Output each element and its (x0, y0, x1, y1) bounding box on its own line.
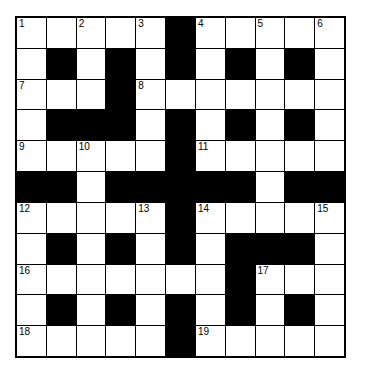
letter-cell[interactable] (256, 326, 285, 356)
letter-cell[interactable] (106, 265, 135, 295)
letter-cell[interactable] (315, 326, 344, 356)
letter-cell[interactable]: 16 (17, 265, 46, 295)
letter-cell[interactable]: 17 (256, 265, 285, 295)
letter-cell[interactable]: 3 (136, 18, 165, 48)
letter-cell[interactable] (256, 295, 285, 325)
letter-cell[interactable] (285, 265, 314, 295)
letter-cell[interactable] (285, 203, 314, 233)
letter-cell[interactable] (77, 326, 106, 356)
letter-cell[interactable] (285, 141, 314, 171)
letter-cell[interactable] (106, 141, 135, 171)
letter-cell[interactable] (226, 141, 255, 171)
letter-cell[interactable] (77, 49, 106, 79)
black-square (285, 234, 314, 264)
letter-cell[interactable] (17, 110, 46, 140)
letter-cell[interactable] (196, 80, 225, 110)
letter-cell[interactable] (226, 18, 255, 48)
letter-cell[interactable] (315, 265, 344, 295)
letter-cell[interactable] (166, 265, 195, 295)
letter-cell[interactable]: 4 (196, 18, 225, 48)
letter-cell[interactable] (315, 110, 344, 140)
letter-cell[interactable]: 18 (17, 326, 46, 356)
letter-cell[interactable]: 14 (196, 203, 225, 233)
letter-cell[interactable] (136, 110, 165, 140)
clue-number: 8 (138, 81, 144, 91)
letter-cell[interactable] (226, 326, 255, 356)
letter-cell[interactable] (17, 49, 46, 79)
letter-cell[interactable] (285, 80, 314, 110)
letter-cell[interactable] (136, 265, 165, 295)
letter-cell[interactable] (17, 234, 46, 264)
letter-cell[interactable] (106, 18, 135, 48)
letter-cell[interactable] (17, 295, 46, 325)
letter-cell[interactable]: 6 (315, 18, 344, 48)
letter-cell[interactable] (315, 295, 344, 325)
letter-cell[interactable] (136, 234, 165, 264)
black-square (17, 172, 46, 202)
letter-cell[interactable] (315, 49, 344, 79)
letter-cell[interactable] (77, 234, 106, 264)
letter-cell[interactable] (315, 80, 344, 110)
letter-cell[interactable] (256, 203, 285, 233)
letter-cell[interactable]: 8 (136, 80, 165, 110)
letter-cell[interactable] (47, 141, 76, 171)
letter-cell[interactable] (315, 141, 344, 171)
letter-cell[interactable]: 10 (77, 141, 106, 171)
letter-cell[interactable] (256, 172, 285, 202)
letter-cell[interactable] (136, 49, 165, 79)
letter-cell[interactable]: 15 (315, 203, 344, 233)
letter-cell[interactable]: 9 (17, 141, 46, 171)
letter-cell[interactable] (285, 326, 314, 356)
black-square (226, 49, 255, 79)
letter-cell[interactable] (256, 49, 285, 79)
letter-cell[interactable]: 19 (196, 326, 225, 356)
letter-cell[interactable] (196, 234, 225, 264)
letter-cell[interactable] (136, 295, 165, 325)
letter-cell[interactable] (226, 203, 255, 233)
letter-cell[interactable]: 12 (17, 203, 46, 233)
letter-cell[interactable] (106, 203, 135, 233)
letter-cell[interactable] (47, 203, 76, 233)
black-square (285, 172, 314, 202)
letter-cell[interactable] (106, 326, 135, 356)
letter-cell[interactable] (47, 326, 76, 356)
letter-cell[interactable] (77, 80, 106, 110)
letter-cell[interactable] (315, 234, 344, 264)
letter-cell[interactable]: 7 (17, 80, 46, 110)
black-square (47, 295, 76, 325)
clue-number: 18 (19, 327, 30, 337)
letter-cell[interactable] (285, 18, 314, 48)
letter-cell[interactable]: 11 (196, 141, 225, 171)
letter-cell[interactable]: 13 (136, 203, 165, 233)
letter-cell[interactable] (47, 265, 76, 295)
black-square (196, 172, 225, 202)
letter-cell[interactable] (77, 265, 106, 295)
clue-number: 13 (138, 204, 149, 214)
letter-cell[interactable] (196, 265, 225, 295)
letter-cell[interactable] (47, 18, 76, 48)
letter-cell[interactable]: 1 (17, 18, 46, 48)
black-square (47, 234, 76, 264)
letter-cell[interactable] (77, 203, 106, 233)
letter-cell[interactable] (77, 172, 106, 202)
clue-number: 7 (19, 81, 25, 91)
letter-cell[interactable] (136, 141, 165, 171)
letter-cell[interactable] (226, 80, 255, 110)
letter-cell[interactable]: 2 (77, 18, 106, 48)
letter-cell[interactable] (196, 295, 225, 325)
black-square (106, 295, 135, 325)
black-square (226, 295, 255, 325)
letter-cell[interactable] (136, 326, 165, 356)
letter-cell[interactable] (77, 295, 106, 325)
black-square (106, 110, 135, 140)
black-square (106, 49, 135, 79)
clue-number: 6 (317, 19, 323, 29)
letter-cell[interactable] (47, 80, 76, 110)
letter-cell[interactable] (256, 110, 285, 140)
letter-cell[interactable] (256, 80, 285, 110)
letter-cell[interactable] (196, 110, 225, 140)
letter-cell[interactable] (256, 141, 285, 171)
letter-cell[interactable]: 5 (256, 18, 285, 48)
letter-cell[interactable] (166, 80, 195, 110)
letter-cell[interactable] (196, 49, 225, 79)
